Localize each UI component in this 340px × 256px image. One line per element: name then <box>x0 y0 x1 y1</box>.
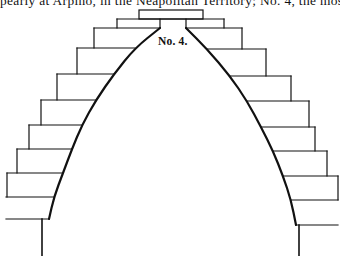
top-block <box>139 10 203 19</box>
arch-curve-left <box>49 28 160 219</box>
figure-label: No. 4. <box>158 35 188 47</box>
